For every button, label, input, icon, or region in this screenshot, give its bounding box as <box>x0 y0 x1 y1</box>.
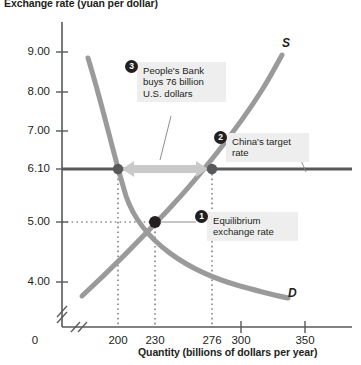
callout-number-1: 1 <box>195 210 208 223</box>
x-tick-label-350: 350 <box>285 334 325 346</box>
callout-number-3: 3 <box>125 60 138 73</box>
exchange-rate-chart-figure: Exchange rate (yuan per dollar) <box>0 0 361 365</box>
marker-quantity-demanded <box>113 164 123 174</box>
x-tick-label-200: 200 <box>98 334 138 346</box>
y-tick-label-8: 8.00 <box>8 85 50 97</box>
y-tick-label-9: 9.00 <box>8 45 50 57</box>
x-tick-label-0: 0 <box>15 334 55 346</box>
demand-curve-label: D <box>288 286 297 300</box>
y-tick-label-610: 6.10 <box>8 162 50 174</box>
callout-china-target-rate: China's target rate <box>226 133 309 162</box>
chart-plot-area <box>0 0 361 365</box>
marker-quantity-supplied <box>207 164 217 174</box>
x-tick-label-230: 230 <box>135 334 175 346</box>
supply-curve-label: S <box>282 36 290 50</box>
y-tick-label-4: 4.00 <box>8 275 50 287</box>
x-tick-label-300: 300 <box>221 334 261 346</box>
x-axis-title: Quantity (billions of dollars per year) <box>138 346 317 358</box>
callout-equilibrium-exchange-rate: Equilibrium exchange rate <box>207 212 298 241</box>
leader-line-callout-3 <box>160 116 171 160</box>
marker-equilibrium <box>149 216 161 228</box>
y-tick-label-5: 5.00 <box>8 215 50 227</box>
callout-number-2: 2 <box>214 131 227 144</box>
intervention-gap-arrow <box>122 161 208 177</box>
y-tick-label-7: 7.00 <box>8 124 50 136</box>
callout-peoples-bank-purchase: People's Bank buys 76 billion U.S. dolla… <box>137 62 226 102</box>
